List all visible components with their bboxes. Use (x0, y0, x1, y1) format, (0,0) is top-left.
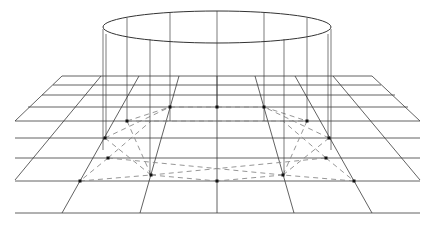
grid-converging-line (15, 76, 62, 121)
construction-dashed-line (105, 107, 170, 138)
grid-point-marker (126, 120, 129, 123)
grid-converging-lines (15, 76, 420, 213)
construction-dashed-line (127, 121, 151, 175)
grid-point-marker (216, 106, 219, 109)
construction-dashed-line (217, 175, 283, 181)
grid-point-marker (263, 106, 266, 109)
grid-converging-line (295, 76, 372, 213)
grid-point-marker (306, 120, 309, 123)
construction-dashed-line (264, 107, 307, 121)
perspective-cylinder-diagram (0, 0, 434, 228)
grid-converging-line (62, 76, 139, 213)
grid-point-marker (104, 137, 107, 140)
construction-dashed-line (283, 175, 354, 181)
grid-converging-line (15, 76, 101, 180)
construction-dashed-line (151, 158, 326, 175)
construction-dashed-line (80, 175, 151, 181)
construction-dashed-line (283, 121, 307, 175)
construction-dashed-line (283, 138, 329, 175)
construction-dashed-line (151, 175, 217, 181)
construction-dashed-line (127, 107, 170, 121)
grid-converging-line (372, 76, 420, 121)
grid-point-marker (107, 157, 110, 160)
grid-point-marker (328, 137, 331, 140)
grid-point-marker (150, 174, 153, 177)
diagram-canvas (0, 0, 434, 228)
grid-horizontal-lines (15, 76, 420, 213)
grid-point-marker (325, 157, 328, 160)
grid-point-marker (169, 106, 172, 109)
grid-point-marker (353, 180, 356, 183)
construction-dashed-line (264, 107, 329, 138)
grid-converging-line (333, 76, 420, 180)
construction-dashed-line (108, 158, 283, 175)
grid-converging-line (140, 76, 179, 213)
grid-point-marker (282, 174, 285, 177)
construction-dashed-line (326, 158, 354, 181)
construction-dashed-line (105, 138, 151, 175)
grid-point-marker (79, 180, 82, 183)
grid-point-marker (216, 180, 219, 183)
grid-converging-line (255, 76, 294, 213)
construction-dashed-line (80, 158, 108, 181)
